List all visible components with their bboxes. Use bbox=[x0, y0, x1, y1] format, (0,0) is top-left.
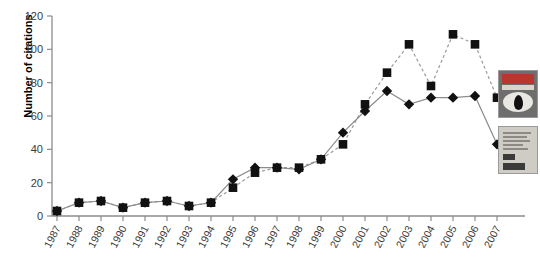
x-tick-label: 1991 bbox=[129, 223, 151, 249]
data-point-square bbox=[339, 140, 348, 149]
data-point-square bbox=[405, 40, 414, 49]
x-tick-label: 1992 bbox=[151, 223, 173, 249]
y-tick-label: 100 bbox=[25, 43, 43, 55]
x-tick-label: 2000 bbox=[327, 223, 349, 249]
x-tick-label: 1998 bbox=[283, 223, 305, 249]
chart-plot-area: 0204060801001201987198819891990199119921… bbox=[0, 0, 540, 259]
data-point-square bbox=[383, 68, 392, 77]
x-tick-label: 1994 bbox=[195, 223, 217, 249]
y-tick-label: 0 bbox=[37, 210, 43, 222]
data-point-square bbox=[471, 40, 480, 49]
thumbnail-strip bbox=[498, 70, 538, 182]
journal-cover-article-reprint bbox=[498, 126, 538, 174]
y-tick-label: 40 bbox=[31, 143, 43, 155]
x-tick-label: 2001 bbox=[349, 223, 371, 249]
x-tick-label: 2004 bbox=[415, 223, 437, 249]
data-point-diamond bbox=[426, 92, 436, 102]
data-point-diamond bbox=[448, 92, 458, 102]
x-tick-label: 1990 bbox=[107, 223, 129, 249]
x-tick-label: 1997 bbox=[261, 223, 283, 249]
series-line-square bbox=[57, 34, 497, 211]
x-tick-label: 1989 bbox=[85, 223, 107, 249]
y-tick-label: 80 bbox=[31, 77, 43, 89]
y-tick-label: 120 bbox=[25, 10, 43, 22]
x-tick-label: 2007 bbox=[481, 223, 503, 249]
x-tick-label: 2002 bbox=[371, 223, 393, 249]
x-tick-label: 1993 bbox=[173, 223, 195, 249]
data-point-square bbox=[449, 30, 458, 39]
data-point-diamond bbox=[404, 99, 414, 109]
x-tick-label: 1999 bbox=[305, 223, 327, 249]
journal-cover-biology-of-reproduction bbox=[498, 70, 538, 118]
figure-chart-citations: Number of citations 02040608010012019871… bbox=[0, 0, 540, 259]
x-tick-label: 2005 bbox=[437, 223, 459, 249]
data-point-square bbox=[229, 183, 238, 192]
y-tick-label: 60 bbox=[31, 110, 43, 122]
data-point-diamond bbox=[470, 91, 480, 101]
x-tick-label: 1987 bbox=[41, 223, 63, 249]
series-line-diamond bbox=[57, 91, 497, 211]
y-tick-label: 20 bbox=[31, 177, 43, 189]
x-tick-label: 2006 bbox=[459, 223, 481, 249]
x-tick-label: 1996 bbox=[239, 223, 261, 249]
data-point-square bbox=[427, 82, 436, 91]
x-tick-label: 1995 bbox=[217, 223, 239, 249]
x-tick-label: 1988 bbox=[63, 223, 85, 249]
x-tick-label: 2003 bbox=[393, 223, 415, 249]
